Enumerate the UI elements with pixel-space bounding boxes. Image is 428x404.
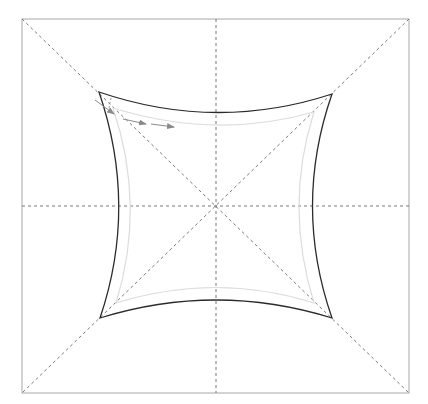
inner-concave-square xyxy=(113,108,314,303)
direction-arrow xyxy=(151,124,174,127)
direction-arrow xyxy=(95,100,114,114)
direction-arrow xyxy=(123,119,146,124)
outer-concave-square xyxy=(99,92,332,318)
diagram-canvas xyxy=(0,0,428,404)
